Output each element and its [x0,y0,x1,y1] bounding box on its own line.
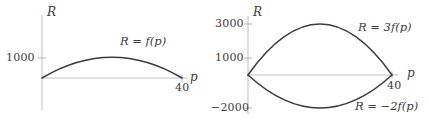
right-ytick-label-1000: 1000 [215,52,244,63]
left-ytick-label-1000: 1000 [6,52,35,63]
right-xtick-label-40: 40 [387,80,401,91]
left-x-axis-label: p [190,71,198,83]
right-chart-panel: R p 3000 1000 −2000 40 R = 3f(p) R = −2f… [215,0,429,122]
right-upper-curve-annotation: R = 3f(p) [358,22,412,34]
left-curve-f [42,57,182,78]
right-ytick-label-neg2000: −2000 [211,102,249,113]
right-ytick-label-3000: 3000 [215,18,244,29]
left-xtick-label-40: 40 [175,82,189,93]
right-y-axis-label: R [253,6,262,18]
right-lower-curve-annotation: R = −2f(p) [355,101,418,113]
right-x-axis-label: p [407,67,415,79]
left-curve-annotation: R = f(p) [120,36,166,48]
left-y-axis-label: R [47,6,56,18]
left-chart-panel: R p 1000 40 R = f(p) [0,0,215,122]
figure-root: R p 1000 40 R = f(p) R p 3000 1000 − [0,0,429,122]
